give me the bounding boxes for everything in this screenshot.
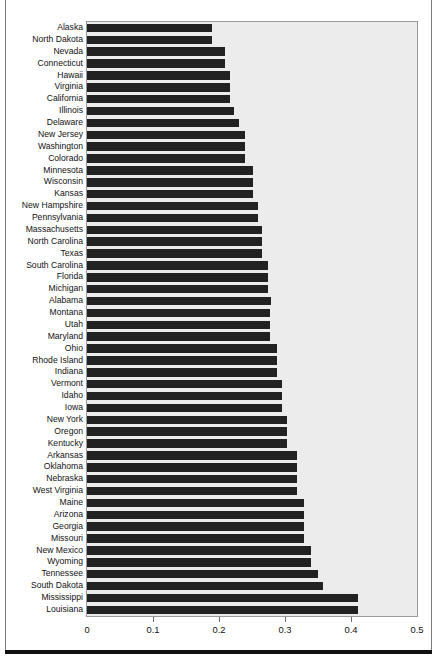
bar xyxy=(87,558,311,567)
bar-track xyxy=(87,533,417,545)
bar xyxy=(87,534,304,543)
bar-row: Arizona xyxy=(0,509,437,521)
bar xyxy=(87,71,230,80)
x-tick-label: 0.4 xyxy=(344,624,357,635)
bar-row: Maryland xyxy=(0,331,437,343)
bar-category-label: Kentucky xyxy=(48,438,83,450)
bar xyxy=(87,142,245,151)
bar-category-label: New York xyxy=(47,414,83,426)
bar xyxy=(87,606,358,615)
bar-category-label: Connecticut xyxy=(38,58,83,70)
bar-category-label: New Hampshire xyxy=(22,200,83,212)
bar-category-label: North Dakota xyxy=(32,34,83,46)
bar-track xyxy=(87,592,417,604)
bar-track xyxy=(87,355,417,367)
bar-row: Wyoming xyxy=(0,556,437,568)
bar-category-label: California xyxy=(47,93,83,105)
bar xyxy=(87,392,282,401)
bar-track xyxy=(87,438,417,450)
bar-track xyxy=(87,129,417,141)
x-tick-mark xyxy=(87,617,88,622)
bar xyxy=(87,451,297,460)
bar-category-label: Ohio xyxy=(65,343,83,355)
bar-track xyxy=(87,402,417,414)
bar xyxy=(87,416,287,425)
bar-row: Alabama xyxy=(0,295,437,307)
bar xyxy=(87,36,212,45)
bar-row: Kentucky xyxy=(0,438,437,450)
bar-row: Florida xyxy=(0,271,437,283)
bar-track xyxy=(87,604,417,616)
bar-row: California xyxy=(0,93,437,105)
bar-row: Pennsylvania xyxy=(0,212,437,224)
x-tick-label: 0.2 xyxy=(212,624,225,635)
bar-category-label: Kansas xyxy=(54,188,83,200)
bar-category-label: South Carolina xyxy=(26,260,83,272)
bar-row: Montana xyxy=(0,307,437,319)
bar-row: Louisiana xyxy=(0,604,437,616)
bar xyxy=(87,380,282,389)
bar-track xyxy=(87,319,417,331)
bar-row: Missouri xyxy=(0,533,437,545)
bar-category-label: Texas xyxy=(61,248,83,260)
bar-track xyxy=(87,188,417,200)
bar-row: Utah xyxy=(0,319,437,331)
bar-category-label: Arkansas xyxy=(47,450,83,462)
bar-row: Vermont xyxy=(0,378,437,390)
bar-track xyxy=(87,283,417,295)
bar-category-label: Maine xyxy=(60,497,83,509)
bar-row: South Carolina xyxy=(0,260,437,272)
bar-row: Alaska xyxy=(0,22,437,34)
bar-category-label: Delaware xyxy=(47,117,83,129)
bar xyxy=(87,154,245,163)
bar-track xyxy=(87,153,417,165)
bar-category-label: Wyoming xyxy=(47,556,83,568)
bar-category-label: Indiana xyxy=(55,366,83,378)
bar-track xyxy=(87,295,417,307)
bar-track xyxy=(87,236,417,248)
bar-category-label: South Dakota xyxy=(31,580,83,592)
x-tick-mark xyxy=(417,617,418,622)
bar-track xyxy=(87,378,417,390)
bar xyxy=(87,427,287,436)
bar-track xyxy=(87,22,417,34)
bar-row: Nebraska xyxy=(0,473,437,485)
bar-category-label: Virginia xyxy=(54,81,83,93)
bar-track xyxy=(87,580,417,592)
bar-category-label: Washington xyxy=(38,141,83,153)
bar-row: Washington xyxy=(0,141,437,153)
bar-category-label: Idaho xyxy=(61,390,83,402)
bar-chart-figure: AlaskaNorth DakotaNevadaConnecticutHawai… xyxy=(0,0,437,661)
bar-track xyxy=(87,224,417,236)
bar xyxy=(87,190,253,199)
bar-category-label: Nevada xyxy=(53,46,83,58)
bar-row: Massachusetts xyxy=(0,224,437,236)
bar-track xyxy=(87,141,417,153)
bar-track xyxy=(87,521,417,533)
bar-category-label: North Carolina xyxy=(28,236,83,248)
bar xyxy=(87,522,304,531)
bar xyxy=(87,463,297,472)
bar-row: Connecticut xyxy=(0,58,437,70)
bar xyxy=(87,356,277,365)
bar xyxy=(87,546,311,555)
bar-track xyxy=(87,58,417,70)
x-tick-mark xyxy=(351,617,352,622)
bar-track xyxy=(87,260,417,272)
bar-category-label: Louisiana xyxy=(46,604,83,616)
bar-row: Delaware xyxy=(0,117,437,129)
bar-category-label: Alaska xyxy=(57,22,83,34)
bar xyxy=(87,344,277,353)
bar-track xyxy=(87,81,417,93)
bar-row: Hawaii xyxy=(0,70,437,82)
bar-row: West Virginia xyxy=(0,485,437,497)
bar-row: New Hampshire xyxy=(0,200,437,212)
bar-row: Virginia xyxy=(0,81,437,93)
bar-category-label: West Virginia xyxy=(33,485,83,497)
bar-track xyxy=(87,366,417,378)
bar-category-label: New Jersey xyxy=(38,129,83,141)
bar-track xyxy=(87,450,417,462)
bar xyxy=(87,214,258,223)
bar xyxy=(87,499,304,508)
bar-category-label: Alabama xyxy=(49,295,83,307)
